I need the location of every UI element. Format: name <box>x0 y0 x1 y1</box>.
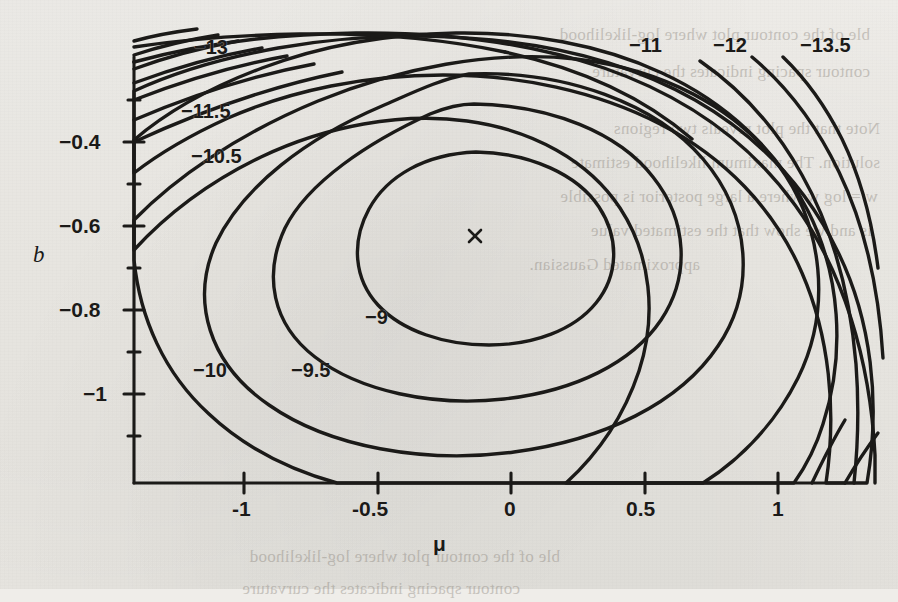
contour-level--9.5 <box>273 104 681 401</box>
contour-label--13: −13 <box>194 36 228 59</box>
contour-level--10.5 <box>134 57 819 483</box>
x-axis-label: μ <box>433 532 446 556</box>
x-tick-label: 1 <box>772 497 784 521</box>
contour-label--11: −11 <box>629 34 662 57</box>
contour-curves <box>134 29 883 483</box>
y-tick-label: −0.6 <box>59 214 100 238</box>
y-tick-label: −0.4 <box>59 130 100 154</box>
x-tick-label: 0 <box>504 497 516 521</box>
contour-level--11.5 <box>134 36 873 483</box>
contour-label--10.5: −10.5 <box>191 145 242 168</box>
contour-label--12: −12 <box>713 34 747 57</box>
y-tick-label: −0.8 <box>59 298 100 322</box>
contour-level--10 <box>205 74 744 456</box>
contour-label--11.5: −11.5 <box>181 100 231 123</box>
contour-level--12 <box>134 33 875 483</box>
x-tick-label: -1 <box>232 497 251 521</box>
contour-label--10: −10 <box>193 359 227 382</box>
x-tick-label: -0.5 <box>352 497 388 521</box>
x-tick-label: 0.5 <box>626 497 655 521</box>
maximum-likelihood-marker <box>469 230 481 242</box>
contour-label--9.5: −9.5 <box>291 359 330 382</box>
y-axis-label: b <box>33 242 45 268</box>
contour-label--9: −9 <box>365 306 388 329</box>
contour-right-tail-b <box>845 433 878 483</box>
y-tick-label: −1 <box>83 382 107 406</box>
contour-label--13.5: −13.5 <box>800 34 851 57</box>
contour-level--9 <box>357 152 613 345</box>
